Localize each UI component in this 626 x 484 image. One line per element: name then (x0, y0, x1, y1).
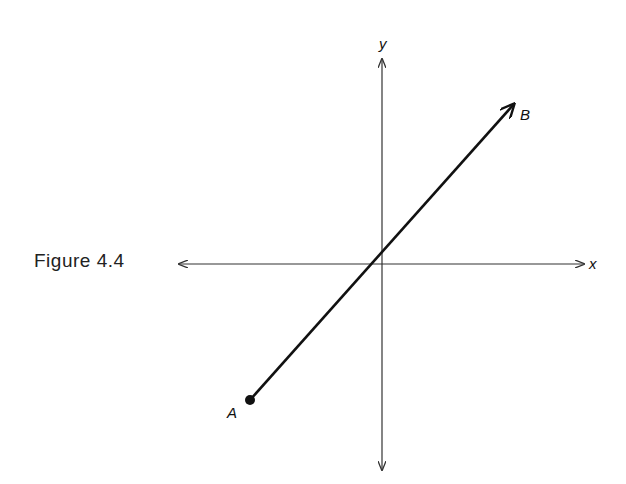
point-a-label: A (226, 404, 237, 421)
point-a-dot (245, 395, 255, 405)
x-axis-label: x (588, 255, 597, 272)
vector-ab (245, 104, 514, 405)
coordinate-diagram: y x B A (0, 0, 626, 484)
point-b-label: B (520, 106, 530, 123)
y-axis-label: y (378, 35, 388, 52)
